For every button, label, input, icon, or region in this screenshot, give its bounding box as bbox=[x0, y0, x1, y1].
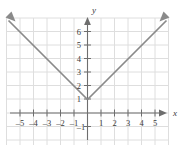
y-tick-label: –1 bbox=[76, 122, 86, 132]
x-tick-label: –5 bbox=[15, 118, 25, 128]
x-tick-label: 2 bbox=[112, 118, 116, 128]
x-tick-label: –2 bbox=[55, 118, 65, 128]
y-tick-label: 1 bbox=[77, 94, 81, 104]
y-tick-label: 2 bbox=[77, 81, 81, 91]
chart-figure: –5 –4 –3 –2 –1 1 2 3 4 5 –1 1 2 3 4 5 6 … bbox=[0, 0, 183, 153]
plot-area: –5 –4 –3 –2 –1 1 2 3 4 5 –1 1 2 3 4 5 6 … bbox=[0, 0, 183, 153]
x-tick-label: 5 bbox=[153, 118, 157, 128]
x-tick-label: 1 bbox=[99, 118, 103, 128]
y-tick-label: 6 bbox=[77, 27, 81, 37]
y-tick-label: 3 bbox=[77, 67, 81, 77]
x-tick-label: –4 bbox=[28, 118, 38, 128]
x-tick-label: –3 bbox=[42, 118, 52, 128]
x-axis-label: x bbox=[172, 108, 177, 118]
y-tick-label: 5 bbox=[77, 40, 81, 50]
y-axis-tick-labels: –1 1 2 3 4 5 6 bbox=[76, 27, 86, 133]
y-axis-label: y bbox=[91, 5, 96, 15]
x-tick-label: 3 bbox=[126, 118, 130, 128]
